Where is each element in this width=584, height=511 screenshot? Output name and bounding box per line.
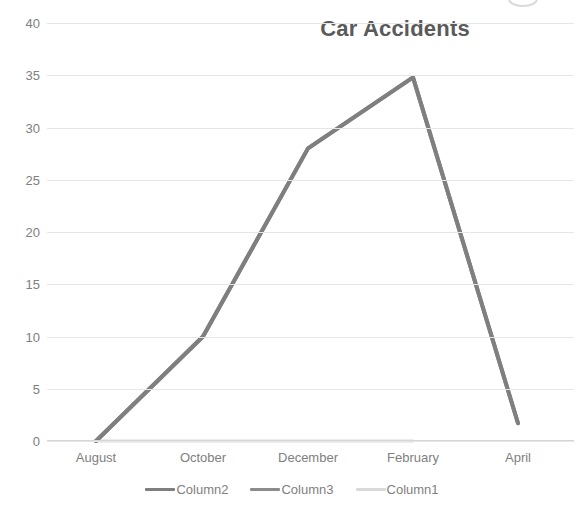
y-tick-label-20: 20 bbox=[6, 226, 40, 239]
legend-line-icon bbox=[250, 488, 280, 491]
x-axis: AugustOctoberDecemberFebruaryApril bbox=[0, 450, 584, 472]
gridline-20 bbox=[47, 232, 574, 233]
gridline-10 bbox=[47, 337, 574, 338]
series-line-column3 bbox=[96, 77, 518, 441]
gridline-40 bbox=[47, 23, 574, 24]
clipped-glyph-artifact bbox=[508, 0, 538, 7]
gridline-35 bbox=[47, 75, 574, 76]
x-tick-label-april: April bbox=[505, 450, 531, 465]
y-tick-label-35: 35 bbox=[6, 69, 40, 82]
x-tick-label-february: February bbox=[387, 450, 439, 465]
y-tick-label-30: 30 bbox=[6, 121, 40, 134]
x-tick-label-october: October bbox=[180, 450, 226, 465]
gridline-15 bbox=[47, 284, 574, 285]
legend-item-column3[interactable]: Column3 bbox=[250, 482, 333, 497]
gridline-25 bbox=[47, 180, 574, 181]
legend-line-icon bbox=[145, 488, 175, 491]
gridline-0 bbox=[47, 441, 574, 442]
series-line-column2 bbox=[96, 77, 518, 441]
legend-label: Column2 bbox=[176, 482, 228, 497]
y-tick-label-25: 25 bbox=[6, 173, 40, 186]
legend-label: Column1 bbox=[387, 482, 439, 497]
legend-item-column2[interactable]: Column2 bbox=[145, 482, 228, 497]
legend-item-column1[interactable]: Column1 bbox=[356, 482, 439, 497]
y-tick-label-0: 0 bbox=[6, 435, 40, 448]
y-tick-label-10: 10 bbox=[6, 330, 40, 343]
y-tick-label-5: 5 bbox=[6, 382, 40, 395]
legend-line-icon bbox=[356, 488, 386, 491]
y-tick-label-40: 40 bbox=[6, 17, 40, 30]
y-tick-label-15: 15 bbox=[6, 278, 40, 291]
gridline-30 bbox=[47, 128, 574, 129]
x-tick-label-december: December bbox=[278, 450, 338, 465]
y-axis: 0510152025303540 bbox=[0, 23, 40, 441]
legend-label: Column3 bbox=[281, 482, 333, 497]
chart-legend: Column2Column3Column1 bbox=[0, 482, 584, 497]
plot-area bbox=[47, 23, 574, 441]
chart-container: Car Accidents 0510152025303540 AugustOct… bbox=[0, 0, 584, 511]
x-tick-label-august: August bbox=[76, 450, 116, 465]
gridline-5 bbox=[47, 389, 574, 390]
